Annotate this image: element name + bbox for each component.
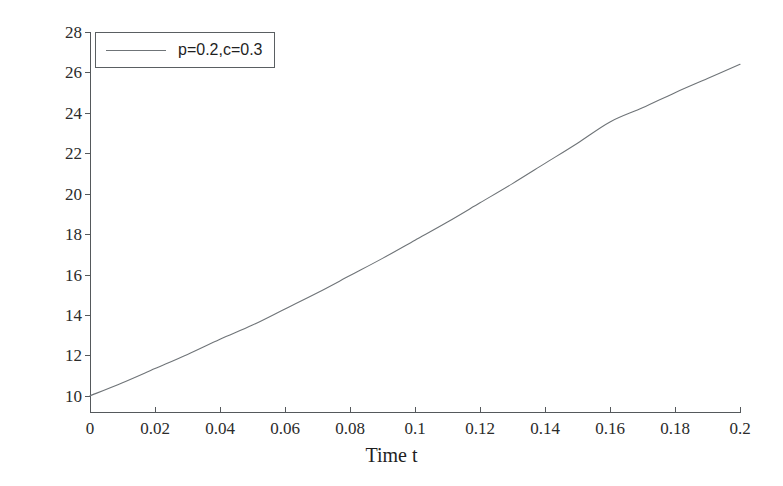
x-tick-label: 0.2: [729, 420, 750, 437]
x-tick-label: 0.14: [530, 420, 560, 437]
y-tick-label: 26: [65, 64, 82, 81]
x-tick-label: 0: [86, 420, 95, 437]
plot-area: 10121416182022242628 00.020.040.060.080.…: [90, 32, 740, 412]
y-tick-label: 14: [65, 306, 82, 323]
legend-item-label: p=0.2,c=0.3: [178, 41, 263, 59]
y-tick-label: 10: [65, 387, 82, 404]
x-tick-label: 0.06: [270, 420, 300, 437]
y-tick-label: 20: [65, 185, 82, 202]
y-tick-label: 22: [65, 145, 82, 162]
curve-path: [90, 64, 740, 395]
y-tick-label: 16: [65, 266, 82, 283]
y-tick-label: 28: [65, 24, 82, 41]
figure-canvas: 10121416182022242628 00.020.040.060.080.…: [0, 0, 783, 486]
x-tick-label: 0.12: [465, 420, 495, 437]
x-tick-label: 0.18: [660, 420, 690, 437]
y-tick-label: 24: [65, 104, 82, 121]
legend-line-sample: [106, 50, 166, 51]
x-axis-title: Time t: [0, 444, 783, 467]
x-tick-label: 0.02: [140, 420, 170, 437]
x-tick-label: 0.1: [404, 420, 425, 437]
x-tick-label: 0.08: [335, 420, 365, 437]
y-tick-label: 12: [65, 347, 82, 364]
legend-box: p=0.2,c=0.3: [95, 32, 275, 68]
y-tick-label: 18: [65, 226, 82, 243]
x-tick-label: 0.04: [205, 420, 235, 437]
series-line-p02-c03: [90, 32, 740, 412]
x-tick-label: 0.16: [595, 420, 625, 437]
x-axis-line: [90, 412, 741, 413]
x-tick-mark: [740, 407, 741, 412]
